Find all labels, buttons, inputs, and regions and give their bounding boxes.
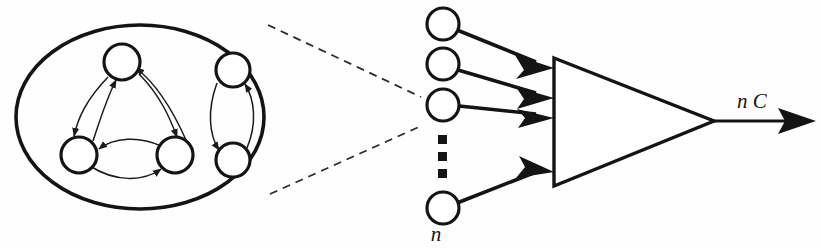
vertical-ellipsis-dot-1 [438, 135, 447, 144]
input-terminal-3 [427, 89, 459, 121]
magnification-callout [268, 25, 421, 194]
input-lead-1 [457, 30, 536, 62]
input-terminal-2 [427, 48, 459, 80]
cluster-node-top [104, 44, 140, 80]
vertical-ellipsis-dot-2 [438, 152, 447, 161]
input-arrowhead-2 [516, 87, 554, 109]
cluster-node-bottom-right [157, 137, 193, 173]
output-label: n C [737, 89, 768, 113]
edge-pair-up [245, 84, 254, 148]
input-terminal-1 [427, 8, 459, 40]
figure-canvas: n n C [0, 0, 821, 248]
callout-line-upper [268, 25, 421, 97]
input-arrowhead-1 [515, 55, 554, 79]
input-count-label: n [431, 222, 442, 246]
edge-top-to-left [74, 77, 108, 136]
vertical-ellipsis-dot-3 [438, 169, 447, 178]
input-arrowhead-n [516, 156, 554, 178]
input-terminal-column [427, 8, 554, 224]
amplifier-triangle [554, 58, 714, 186]
cluster-node-pair-top [216, 53, 250, 87]
edge-right-to-left [99, 139, 161, 149]
input-terminal-n [427, 192, 459, 224]
cluster-node-pair-bottom [216, 143, 250, 177]
edge-pair-down [210, 83, 219, 150]
cluster-edges-pair [210, 83, 253, 150]
cluster-node-bottom-left [61, 137, 97, 173]
edge-top-to-right [139, 74, 177, 137]
recurrent-network-cluster [16, 25, 264, 209]
edge-left-to-right [90, 166, 161, 178]
diagram-svg: n n C [0, 0, 821, 248]
callout-line-lower [270, 126, 421, 194]
input-arrowhead-3 [517, 109, 554, 128]
